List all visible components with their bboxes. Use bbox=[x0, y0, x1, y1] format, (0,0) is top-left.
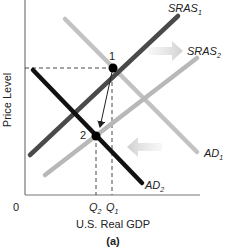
ad-as-diagram: 1 2 SRAS1 SRAS2 AD1 AD2 0 Q2 Q1 U.S. Rea… bbox=[0, 0, 226, 249]
figure-caption: (a) bbox=[106, 235, 120, 247]
sras1-label: SRAS1 bbox=[168, 2, 202, 16]
q1-tick-label: Q1 bbox=[106, 201, 119, 215]
equilibrium-move-arrow bbox=[100, 72, 112, 127]
sras2-label: SRAS2 bbox=[187, 45, 221, 59]
sras-shift-right-arrow bbox=[148, 41, 183, 61]
point-2-label: 2 bbox=[80, 129, 86, 141]
point-1-label: 1 bbox=[109, 50, 115, 62]
sras1-curve bbox=[30, 16, 178, 155]
q2-tick-label: Q2 bbox=[89, 201, 102, 215]
ad1-label: AD1 bbox=[203, 147, 223, 161]
origin-label: 0 bbox=[13, 201, 19, 213]
ad2-label: AD2 bbox=[144, 179, 164, 193]
y-axis-label: Price Level bbox=[1, 73, 13, 127]
equilibrium-point-1 bbox=[109, 64, 118, 73]
ad2-curve bbox=[33, 70, 142, 183]
equilibrium-point-2 bbox=[92, 132, 101, 141]
ad-shift-left-arrow bbox=[127, 137, 162, 157]
x-axis-label: U.S. Real GDP bbox=[76, 218, 150, 230]
